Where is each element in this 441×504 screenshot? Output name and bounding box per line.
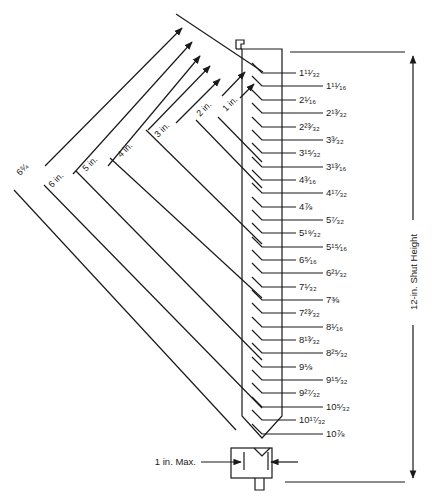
bottom-block: 1 in. Max. [155, 448, 405, 490]
scale-label: 4⅞ [299, 201, 312, 212]
scale-tick [252, 90, 296, 100]
scale-label: 8¹³⁄₃₂ [299, 334, 320, 345]
scale-label: 6²¹⁄₃₂ [326, 267, 347, 278]
scale-tick [252, 143, 296, 153]
scale-tick [252, 370, 323, 380]
scale-label: 5¹⁹⁄₃₂ [299, 227, 321, 238]
scale-label: 2¹³⁄₃₂ [326, 107, 347, 118]
scale-label: 4¹⁷⁄₃₂ [326, 187, 347, 198]
scale-label: 10⁵⁄₃₂ [326, 401, 350, 412]
scale-label: 9⅛ [299, 361, 312, 372]
scale-label: 3¹⁵⁄₃₂ [299, 147, 321, 158]
scale-label: 10¹⁷⁄₃₂ [299, 414, 326, 425]
dim-1in-label: 1 in. [220, 94, 239, 113]
scale-tick [252, 223, 296, 233]
scale-marks: 1¹¹⁄₃₂1¹¹⁄₁₆2¹⁄₁₆2¹³⁄₃₂2²³⁄₃₂3³⁄₃₂3¹⁵⁄₃₂… [252, 63, 350, 439]
diagonal-reference-line [176, 14, 263, 72]
scale-tick [252, 237, 323, 247]
max-label: 1 in. Max. [155, 456, 196, 467]
scale-tick [252, 250, 296, 260]
scale-tick [252, 330, 296, 340]
dim-6in-label: 6 in. [46, 170, 65, 189]
scale-label: 1¹¹⁄₁₆ [326, 80, 346, 91]
scale-label: 9¹⁵⁄₃₂ [326, 374, 348, 385]
scale-label: 10⅞ [326, 428, 345, 439]
scale-label: 2¹⁄₁₆ [299, 94, 316, 105]
scale-tick [252, 117, 296, 127]
scale-label: 5¹⁵⁄₁₆ [326, 241, 347, 252]
shut-height-dimension: 12-in. Shut Height [408, 56, 419, 478]
scale-tick [252, 397, 323, 407]
scale-label: 4³⁄₁₆ [299, 174, 316, 185]
scale-label: 2²³⁄₃₂ [299, 121, 320, 132]
dim-5in-label: 5 in. [80, 154, 99, 173]
scale-label: 3³⁄₃₂ [326, 134, 344, 145]
shut-height-label: 12-in. Shut Height [408, 234, 419, 310]
scale-tick [252, 197, 296, 207]
scale-tick [252, 210, 323, 220]
scale-tick [252, 157, 323, 167]
scale-tick [252, 383, 296, 393]
scale-label: 7¹⁄₃₂ [299, 281, 317, 292]
scale-tick [252, 424, 323, 434]
scale-tick [252, 170, 296, 180]
diagonal-dimensions: 1 in. 2 in. 3 in. 4 in. 5 in. 6 in. 6¾ [14, 28, 262, 430]
scale-tick [252, 277, 296, 287]
dim-6-3-4-label: 6¾ [14, 161, 30, 177]
scale-label: 9²⁷⁄₃₂ [299, 387, 320, 398]
scale-label: 3¹³⁄₁₆ [326, 161, 346, 172]
dim-4in-label: 4 in. [115, 140, 134, 159]
scale-label: 7²³⁄₃₂ [299, 307, 320, 318]
shut-height-diagram: 1 in. Max. 12-in. Shut Height 1 in. 2 in… [0, 0, 441, 504]
scale-label: 7⅜ [326, 294, 339, 305]
scale-label: 8¹⁄₁₆ [326, 321, 343, 332]
scale-tick [252, 357, 296, 367]
scale-tick [252, 63, 296, 73]
scale-label: 5⁷⁄₃₂ [326, 214, 344, 225]
scale-label: 1¹¹⁄₃₂ [299, 67, 320, 78]
scale-tick [252, 303, 296, 313]
scale-label: 8²⁵⁄₃₂ [326, 347, 348, 358]
scale-tick [252, 410, 296, 420]
scale-tick [252, 317, 323, 327]
scale-label: 6⁵⁄₁₆ [299, 254, 317, 265]
